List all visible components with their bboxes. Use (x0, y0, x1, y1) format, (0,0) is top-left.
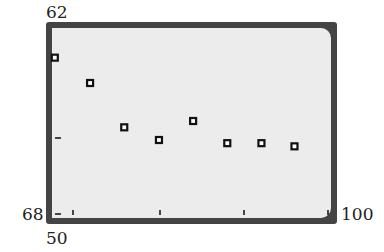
data-point (121, 124, 127, 130)
data-point (87, 80, 93, 86)
data-point (156, 137, 162, 143)
data-point (258, 140, 264, 146)
data-point (291, 143, 297, 149)
data-point (224, 140, 230, 146)
data-point (52, 55, 58, 61)
scatter-plot (0, 0, 384, 252)
data-point (190, 118, 196, 124)
